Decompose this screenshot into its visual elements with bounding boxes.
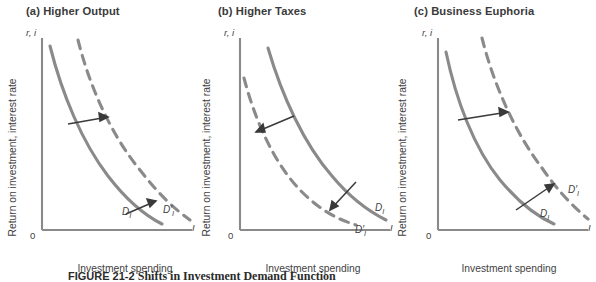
panel-a-curve-solid-di [50, 46, 162, 224]
panel-b-dip-base: D′ [355, 224, 364, 235]
panel-c-plot: r, i I 0 Return on investment, interest … [396, 24, 594, 256]
panel-a-curve-label-di: DI [122, 206, 131, 220]
panel-b-y-axis-label: Return on investment, interest rate [201, 58, 212, 258]
panel-a-dip-base: D′ [163, 204, 172, 215]
panel-c-y-axis-label: Return on investment, interest rate [397, 58, 408, 258]
panel-a-origin: 0 [30, 230, 35, 241]
panel-a-svg [0, 24, 198, 256]
panel-c-title: (c) Business Euphoria [396, 5, 596, 17]
panel-c-axis-tip-x: I [588, 222, 591, 233]
panel-b-di-sub: I [382, 207, 384, 216]
panel-c-curve-label-di: DI [540, 208, 549, 222]
panel-b-higher-taxes: (b) Higher Taxes r, i I [198, 0, 396, 279]
panel-b-plot: r, i I 0 Return on investment, interest … [198, 24, 396, 256]
panel-a-dip-sub: I [172, 209, 174, 218]
panel-a-axis-tip-y: r, i [26, 27, 36, 38]
panel-b-curve-label-di: DI [375, 202, 384, 216]
figure-caption: FIGURE 21-2 Shifts in Investment Demand … [0, 269, 596, 282]
panel-a-y-axis-label: Return on investment, interest rate [7, 58, 18, 258]
panel-c-origin: 0 [426, 230, 431, 241]
panel-a-curve-dashed-di-prime [78, 40, 190, 220]
panel-a-di-sub: I [129, 211, 131, 220]
panel-c-curve-label-di-prime: D′I [568, 184, 579, 198]
panel-c-di-sub: I [547, 213, 549, 222]
panel-c-axis-tip-y: r, i [422, 27, 432, 38]
panel-b-dip-sub: I [364, 229, 366, 238]
panel-b-title: (b) Higher Taxes [198, 5, 416, 17]
panel-c-dip-base: D′ [568, 184, 577, 195]
panel-b-curve-dashed-di-prime [244, 78, 356, 225]
panel-b-shift-arrow-upper [256, 116, 294, 132]
panel-c-svg [396, 24, 594, 256]
panel-c-dip-sub: I [577, 189, 579, 198]
panel-c-business-euphoria: (c) Business Euphoria r, i [396, 0, 594, 279]
panel-a-title: (a) Higher Output [0, 5, 224, 17]
figure-caption-title: Shifts in Investment Demand Function [138, 269, 336, 282]
panel-b-axis-tip-x: I [390, 222, 393, 233]
panel-c-curve-solid-di [446, 52, 554, 224]
panel-a-higher-output: (a) Higher Output r, i [0, 0, 198, 279]
panel-b-curve-label-di-prime: D′I [355, 224, 366, 238]
panel-b-svg [198, 24, 396, 256]
figure-caption-number: FIGURE 21-2 [68, 270, 135, 282]
panel-a-plot: r, i I 0 Return on investment, interest … [0, 24, 198, 256]
panel-a-axis-tip-x: I [192, 222, 195, 233]
panel-a-curve-label-di-prime: D′I [163, 204, 174, 218]
panel-c-shift-arrow-lower [516, 184, 554, 210]
panel-b-origin: 0 [228, 230, 233, 241]
panel-b-curve-solid-di [268, 48, 386, 220]
panel-b-axis-tip-y: r, i [224, 27, 234, 38]
